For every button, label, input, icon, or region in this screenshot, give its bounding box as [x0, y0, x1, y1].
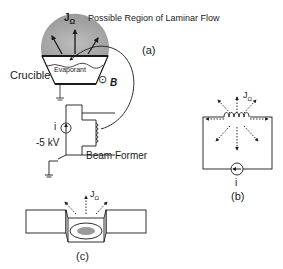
boat-left-electrode — [26, 210, 66, 233]
crucible-label: Crucible — [10, 70, 50, 81]
evaporant-spot — [77, 227, 95, 235]
flux-subscript: Ω — [248, 96, 253, 102]
boat-right-electrode — [106, 210, 146, 233]
voltage-label: -5 kV — [36, 138, 59, 148]
flux-label-c: JΩ — [90, 190, 99, 201]
panel-c — [26, 196, 146, 242]
panel-b-tag: (b) — [231, 191, 244, 202]
flux-label-a: JΩ — [64, 13, 75, 25]
filament-loop — [203, 117, 272, 169]
b-field-symbol: ⊙ — [98, 74, 107, 85]
panel-c-tag: (c) — [76, 251, 89, 262]
flux-arrows-c — [65, 196, 107, 214]
flux-subscript: Ω — [95, 195, 100, 201]
panel-b — [203, 97, 272, 175]
laminar-flow-label: Possible Region of Laminar Flow — [88, 14, 220, 23]
panel-a-tag: (a) — [142, 45, 155, 56]
b-field-label: B — [110, 78, 117, 88]
flux-arrows-b — [206, 97, 268, 150]
current-label-a: i — [54, 122, 56, 132]
flux-label-b: JΩ — [243, 91, 252, 102]
beam-former-label: Beam Former — [86, 151, 147, 161]
flux-subscript: Ω — [70, 18, 76, 25]
evaporant-label: Evaporant — [54, 66, 86, 73]
diagram-canvas — [0, 0, 283, 269]
current-label-b: i — [235, 178, 237, 188]
